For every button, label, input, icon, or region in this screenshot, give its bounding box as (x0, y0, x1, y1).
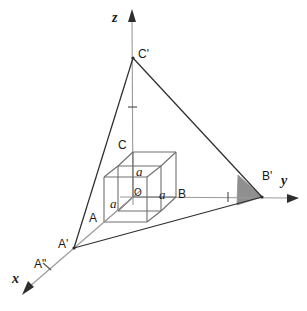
point-label-origin: O (134, 188, 142, 198)
point-label-a: A (89, 212, 97, 224)
geometry-figure: z y x C' B' A' A" C B A O a a a (0, 0, 307, 311)
edge-length-label-depth: a (110, 197, 117, 210)
section-triangle (74, 58, 262, 248)
z-axis-arrow-icon (128, 9, 136, 22)
cube-edge-diag-bottom-right (147, 211, 161, 222)
edge-length-label-horizontal: a (159, 188, 166, 201)
edge-length-label-vertical: a (136, 165, 143, 178)
cube-edge-diag-top-left (104, 166, 118, 177)
vertex-dot-a-prime (72, 246, 75, 249)
point-label-a-prime: A' (58, 238, 68, 250)
y-axis-arrow-icon (287, 194, 299, 203)
point-label-b-prime: B' (262, 170, 272, 182)
vertex-dot-c-prime (131, 56, 134, 59)
cube-edge-diag-top-right (147, 166, 161, 177)
axis-label-z: z (112, 11, 117, 25)
point-label-a-double-prime: A" (34, 258, 46, 270)
vertex-dot-b-prime (260, 195, 263, 198)
point-label-c: C (118, 139, 127, 151)
x-axis-arrow-icon (22, 281, 34, 295)
point-label-b: B (178, 188, 186, 200)
vertex-markers (72, 56, 263, 249)
cube-edge-top-left (118, 152, 133, 166)
point-label-c-prime: C' (138, 48, 149, 60)
cube-edge-top-right (161, 152, 176, 166)
axis-label-x: x (12, 272, 19, 286)
triangle-edge-cb-prime (133, 58, 262, 197)
axis-label-y: y (281, 174, 287, 188)
